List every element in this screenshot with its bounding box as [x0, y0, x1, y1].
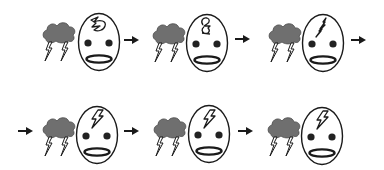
panel-3: [268, 14, 358, 78]
storm-cloud-icon: [154, 118, 186, 156]
storm-cloud-icon: [269, 24, 301, 62]
storm-cloud-icon: [43, 23, 75, 61]
face-icon: [302, 108, 343, 165]
storm-cloud-icon: [153, 24, 185, 62]
panel-6: [267, 107, 357, 170]
panel-2: [152, 14, 242, 78]
arrow-right-icon: [18, 126, 34, 136]
panel-5: [153, 105, 243, 169]
face-icon: [79, 14, 120, 71]
arrow-right-icon: [351, 35, 367, 45]
face-icon: [189, 106, 230, 163]
storm-cloud-icon: [268, 118, 300, 156]
storm-cloud-icon: [43, 118, 75, 156]
face-icon: [187, 15, 228, 72]
arrow-right-icon: [238, 126, 254, 136]
arrow-right-icon: [235, 34, 251, 44]
face-icon: [303, 15, 344, 72]
panel-1: [42, 13, 132, 77]
panel-4: [42, 106, 132, 170]
face-icon: [77, 107, 118, 164]
arrow-right-icon: [124, 126, 140, 136]
arrow-right-icon: [124, 35, 140, 45]
